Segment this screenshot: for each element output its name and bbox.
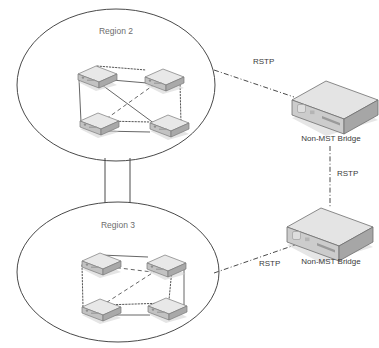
switch-icon[interactable]	[80, 113, 119, 138]
bridge-icon[interactable]	[287, 208, 373, 263]
region-2-group: Region 2	[17, 9, 215, 161]
rstp-link-region3-bridge-bottom	[214, 245, 295, 273]
bridge-icon[interactable]	[292, 81, 378, 136]
rstp-label-bottom: RSTP	[259, 259, 280, 268]
diagram-canvas: Region 2	[0, 0, 379, 348]
rstp-label-top: RSTP	[253, 57, 274, 66]
region-3-label: Region 3	[101, 220, 135, 230]
bridge-top-label: Non-MST Bridge	[301, 134, 361, 143]
link-r2-tl-bl-solid	[79, 79, 81, 122]
switch-icon[interactable]	[145, 69, 184, 94]
switch-icon[interactable]	[148, 298, 187, 323]
bridge-bottom-group: Non-MST Bridge	[287, 208, 373, 266]
link-r3-tl-bl-dotted	[82, 265, 83, 307]
switch-icon[interactable]	[150, 115, 189, 140]
rstp-label-middle: RSTP	[337, 169, 358, 178]
link-r3-tr-bl-diagonal-dashed	[101, 270, 157, 306]
bridge-top-group: Non-MST Bridge	[292, 81, 378, 143]
rstp-link-region2-bridge-top	[214, 70, 294, 97]
switch-icon[interactable]	[147, 255, 186, 280]
region-3-group: Region 3	[17, 202, 219, 342]
switch-icon[interactable]	[82, 253, 121, 278]
region-interconnect	[105, 158, 130, 203]
region-2-label: Region 2	[99, 26, 133, 36]
bridge-bottom-label: Non-MST Bridge	[301, 257, 361, 266]
region-2-switches	[78, 66, 189, 140]
switch-icon[interactable]	[78, 66, 117, 91]
switch-icon[interactable]	[82, 299, 121, 324]
network-diagram: Region 2	[0, 0, 379, 348]
region-3-switches	[82, 253, 187, 324]
